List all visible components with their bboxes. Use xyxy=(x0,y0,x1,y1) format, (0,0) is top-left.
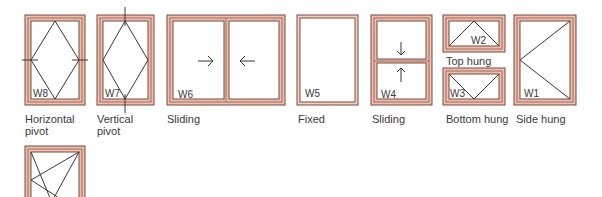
label-side-hung: Side hung xyxy=(516,113,566,125)
label-line: pivot xyxy=(25,125,75,137)
window-w6-sliding: W6 xyxy=(167,15,285,105)
label-sliding-horizontal: Sliding xyxy=(167,113,200,125)
label-vertical-pivot: Vertical pivot xyxy=(97,113,133,137)
label-line: pivot xyxy=(97,125,133,137)
window-tag-w6: W6 xyxy=(178,89,193,100)
window-tag-w1: W1 xyxy=(524,88,539,99)
label-line: Horizontal xyxy=(25,113,75,125)
label-fixed: Fixed xyxy=(298,113,325,125)
window-tag-w4: W4 xyxy=(381,89,396,100)
label-top-hung: Top hung xyxy=(446,55,491,67)
window-w1-side-hung: W1 xyxy=(514,15,576,105)
window-w8-horizontal-pivot: W8 xyxy=(22,15,88,105)
window-tag-w5: W5 xyxy=(305,88,320,99)
window-w4-sliding: W4 xyxy=(371,15,432,105)
window-tag-w3: W3 xyxy=(450,88,465,99)
label-sliding-vertical: Sliding xyxy=(372,113,405,125)
window-w5-fixed: W5 xyxy=(297,15,358,105)
window-w2-top-hung: W2 xyxy=(443,15,505,52)
window-tag-w7: W7 xyxy=(105,88,120,99)
window-tag-w8: W8 xyxy=(33,88,48,99)
label-line: Vertical xyxy=(97,113,133,125)
window-w7-vertical-pivot: W7 xyxy=(97,7,154,113)
label-bottom-hung: Bottom hung xyxy=(446,113,508,125)
label-horizontal-pivot: Horizontal pivot xyxy=(25,113,75,137)
window-w3-bottom-hung: W3 xyxy=(443,68,505,105)
window-types-diagram: .outer{fill:#ecbfb0;stroke:#7a4a3a;strok… xyxy=(0,0,602,197)
window-tag-w2: W2 xyxy=(471,35,486,46)
window-w9-partial xyxy=(25,146,85,197)
